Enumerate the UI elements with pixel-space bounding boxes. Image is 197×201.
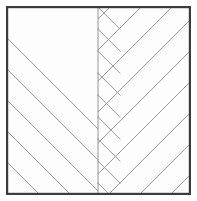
panel-fill xyxy=(7,7,190,194)
herringbone-svg: Herringbone pattern square tile xyxy=(0,0,197,201)
herringbone-figure: Herringbone pattern square tile xyxy=(0,0,197,201)
screenshot-root: Herringbone pattern square tile A square… xyxy=(0,0,197,201)
